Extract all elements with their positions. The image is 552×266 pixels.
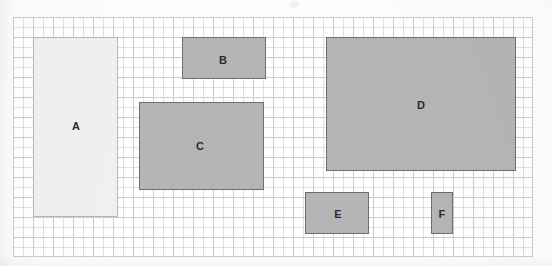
rectangle-d[interactable]: D [326, 37, 516, 171]
rectangle-a-label: A [72, 121, 80, 132]
figure-canvas: A B C D E F [0, 0, 552, 266]
rectangle-b[interactable]: B [182, 37, 266, 79]
rectangle-e[interactable]: E [305, 192, 369, 234]
rectangle-e-label: E [334, 209, 342, 220]
rectangle-f-label: F [439, 209, 446, 220]
rectangle-b-label: B [219, 55, 227, 66]
rectangle-d-label: D [417, 100, 425, 111]
rectangle-f[interactable]: F [431, 192, 453, 234]
scan-smudge-top [290, 1, 299, 8]
page-edge-shadow-left [0, 0, 14, 266]
rectangle-c[interactable]: C [139, 102, 264, 190]
rectangle-a[interactable]: A [33, 37, 118, 217]
rectangle-c-label: C [196, 141, 204, 152]
